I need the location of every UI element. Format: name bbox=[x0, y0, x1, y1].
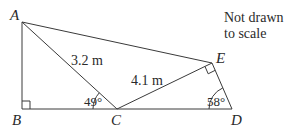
note-line-2: to scale bbox=[224, 26, 284, 42]
angle-label-D: 58° bbox=[207, 95, 225, 108]
vertex-label-A: A bbox=[10, 8, 19, 23]
vertex-label-C: C bbox=[111, 113, 121, 128]
note-line-1: Not drawn bbox=[224, 10, 284, 26]
vertex-label-E: E bbox=[216, 51, 225, 66]
angle-label-C: 49° bbox=[84, 95, 102, 108]
length-label-CE: 4.1 m bbox=[131, 74, 163, 88]
right-angle-marker-B bbox=[22, 101, 30, 109]
not-to-scale-note: Not drawn to scale bbox=[224, 10, 284, 42]
length-label-AC: 3.2 m bbox=[71, 54, 103, 68]
vertex-label-B: B bbox=[12, 113, 21, 128]
vertex-label-D: D bbox=[231, 113, 242, 128]
segment-AE bbox=[22, 22, 212, 63]
geometry-diagram: A B C D E 3.2 m 4.1 m 49° 58° Not drawn … bbox=[0, 0, 296, 129]
